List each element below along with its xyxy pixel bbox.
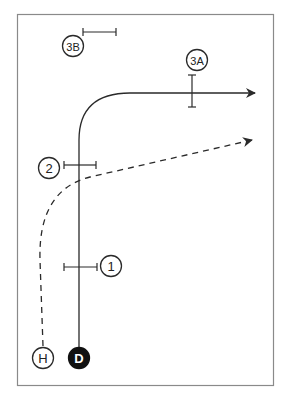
- route-d-solid: [79, 93, 255, 348]
- zone-bracket-3a: [188, 75, 196, 107]
- player-1-label: 1: [107, 259, 114, 274]
- zone-bracket-2: [64, 161, 96, 169]
- zone-bracket-3b: [83, 28, 116, 36]
- player-2-label: 2: [45, 161, 52, 176]
- player-d-label: D: [74, 351, 83, 366]
- player-3b-label: 3B: [66, 41, 79, 53]
- player-1: 1: [101, 256, 122, 277]
- play-diagram: 3B 3A 2 1 H D: [0, 0, 287, 400]
- player-2: 2: [39, 158, 60, 179]
- diagram-border: [18, 15, 274, 386]
- route-h-dashed: [40, 140, 252, 346]
- player-h-label: H: [38, 351, 47, 366]
- player-3a-label: 3A: [190, 55, 204, 67]
- player-h: H: [33, 348, 54, 369]
- player-3b: 3B: [63, 36, 84, 57]
- zone-bracket-1: [64, 263, 97, 271]
- player-3a: 3A: [187, 50, 208, 71]
- player-d: D: [69, 348, 90, 369]
